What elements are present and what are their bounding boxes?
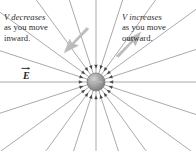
field-arrowhead (79, 86, 83, 89)
vector-arrow-icon (21, 65, 31, 70)
negative-charge-sphere (87, 73, 105, 91)
electric-field-figure: V decreases as you move inward. V increa… (0, 0, 196, 151)
field-arrowhead (100, 65, 103, 69)
field-line (0, 51, 87, 79)
caption-right: V increases as you move outward. (122, 12, 166, 43)
field-arrowhead (89, 65, 92, 69)
field-arrowhead (109, 80, 113, 83)
field-arrowhead (109, 86, 113, 89)
field-arrowhead (79, 75, 83, 78)
field-arrowhead (94, 65, 97, 69)
field-line (1, 88, 88, 151)
caption-right-line3: outward. (122, 33, 153, 43)
caption-right-line2: as you move (122, 22, 166, 32)
field-arrowhead (107, 90, 111, 94)
caption-left-line2: as you move (4, 22, 48, 32)
field-arrowhead (104, 67, 108, 71)
e-letter: E (23, 70, 30, 81)
field-line (105, 85, 196, 115)
caption-left: V decreases as you move inward. (4, 12, 48, 43)
field-arrowhead (100, 95, 103, 99)
electric-field-label: E (22, 70, 31, 81)
caption-right-emphasis: V increases (122, 12, 162, 22)
field-arrowhead (85, 67, 89, 71)
caption-left-emphasis: V decreases (4, 12, 45, 22)
field-arrowhead (81, 71, 85, 75)
field-arrowhead (104, 93, 108, 97)
field-arrowhead (94, 95, 97, 99)
caption-left-line3: inward. (4, 33, 30, 43)
field-arrowhead (107, 71, 111, 75)
field-line (0, 85, 87, 113)
field-arrowhead (85, 93, 89, 97)
field-arrowhead (89, 95, 92, 99)
field-arrowhead (109, 75, 113, 78)
field-line (104, 88, 191, 151)
field-arrowhead (81, 90, 85, 94)
field-arrowhead (79, 80, 83, 83)
e-vector-symbol: E (22, 70, 31, 81)
